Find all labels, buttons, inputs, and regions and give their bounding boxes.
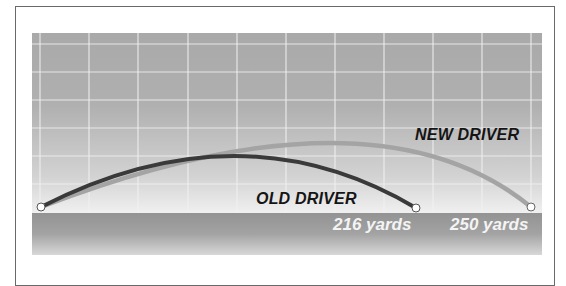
old-driver-label: OLD DRIVER	[256, 190, 357, 208]
tee-point-marker	[37, 203, 45, 211]
old-driver-distance: 216 yards	[333, 215, 411, 235]
new-driver-distance: 250 yards	[450, 215, 528, 235]
old-driver-landing-marker	[412, 204, 420, 212]
new-driver-landing-marker	[527, 203, 535, 211]
grid-lines	[32, 33, 542, 213]
new-driver-label: NEW DRIVER	[415, 126, 519, 144]
old-driver-trajectory	[41, 156, 416, 208]
